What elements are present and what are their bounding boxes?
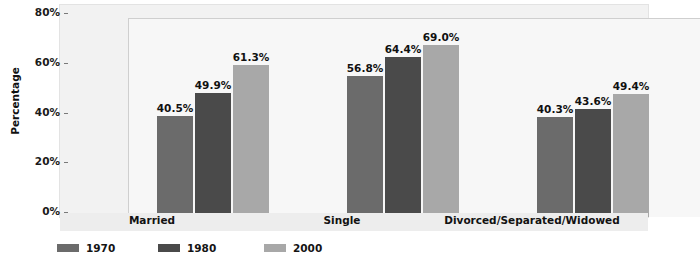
x-axis-category-label: Married [42,214,262,226]
legend-label: 1970 [86,242,115,254]
legend-label: 1980 [187,242,216,254]
y-axis-tick-mark [64,113,68,114]
y-axis-tick-label: 20% [16,155,60,167]
y-axis-tick-label: 40% [16,106,60,118]
y-axis-tick-mark [64,63,68,64]
legend-item-1970: 1970 [57,240,115,256]
x-axis-category-label: Single [232,214,452,226]
legend-label: 2000 [293,242,322,254]
legend-swatch [264,244,286,252]
x-axis-category-label: Divorced/Separated/Widowed [422,214,642,226]
y-axis-tick-label: 60% [16,56,60,68]
legend: 197019802000 [0,240,652,258]
legend-swatch [57,244,79,252]
y-axis-tick-label: 80% [16,6,60,18]
legend-swatch [158,244,180,252]
y-axis-tick-mark [64,13,68,14]
y-axis-title: Percentage [9,55,21,147]
legend-item-2000: 2000 [264,240,322,256]
y-axis-tick-mark [64,162,68,163]
legend-item-1980: 1980 [158,240,216,256]
